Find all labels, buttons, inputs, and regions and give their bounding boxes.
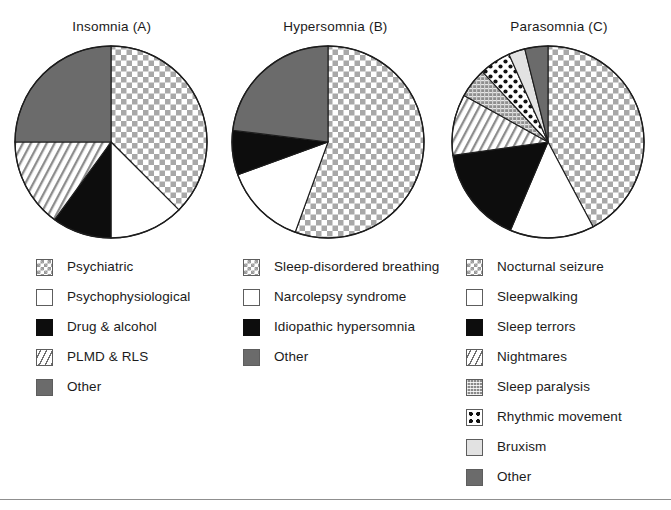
legend-item-label: PLMD & RLS bbox=[67, 349, 148, 365]
legend-item[interactable]: Other bbox=[466, 462, 671, 492]
legend-item-label: Nightmares bbox=[497, 349, 567, 365]
legend-swatch-gray-icon bbox=[243, 349, 260, 366]
legend-item[interactable]: Sleep paralysis bbox=[466, 372, 671, 402]
figure-panel: Insomnia (A) Hypersomnia (B) Parasomnia … bbox=[0, 0, 671, 510]
chart-title-parasomnia: Parasomnia (C) bbox=[447, 18, 671, 40]
legend-item[interactable]: Other bbox=[36, 372, 236, 402]
legend-swatch-white-icon bbox=[466, 289, 483, 306]
legend-item[interactable]: Sleep terrors bbox=[466, 312, 671, 342]
legend-item-label: Sleepwalking bbox=[497, 289, 578, 305]
pie-slice[interactable] bbox=[15, 46, 111, 142]
legend-item-label: Sleep paralysis bbox=[497, 379, 590, 395]
chart-title-hypersomnia: Hypersomnia (B) bbox=[224, 18, 448, 40]
legend-item-label: Other bbox=[67, 379, 101, 395]
legend-swatch-checker-icon bbox=[466, 259, 483, 276]
legend-item[interactable]: Nightmares bbox=[466, 342, 671, 372]
pie-slices-hypersomnia bbox=[232, 46, 424, 238]
legend-swatch-lightgray-icon bbox=[466, 439, 483, 456]
legend-item-label: Rhythmic movement bbox=[497, 409, 622, 425]
pie-slices-parasomnia bbox=[452, 46, 644, 238]
legend-hypersomnia: Sleep-disordered breathingNarcolepsy syn… bbox=[243, 252, 458, 372]
legend-item-label: Other bbox=[274, 349, 308, 365]
legend-item[interactable]: Nocturnal seizure bbox=[466, 252, 671, 282]
legend-item[interactable]: Psychiatric bbox=[36, 252, 236, 282]
legend-item-label: Sleep-disordered breathing bbox=[274, 259, 439, 275]
legend-swatch-diagonal-icon bbox=[466, 349, 483, 366]
legend-swatch-diagonal-icon bbox=[36, 349, 53, 366]
chart-title-insomnia: Insomnia (A) bbox=[0, 18, 224, 40]
legend-item-label: Idiopathic hypersomnia bbox=[274, 319, 415, 335]
legend-insomnia: PsychiatricPsychophysiologicalDrug & alc… bbox=[36, 252, 236, 402]
legend-swatch-white-icon bbox=[36, 289, 53, 306]
legend-item-label: Narcolepsy syndrome bbox=[274, 289, 406, 305]
legend-item[interactable]: Narcolepsy syndrome bbox=[243, 282, 458, 312]
legend-item[interactable]: Drug & alcohol bbox=[36, 312, 236, 342]
legend-parasomnia: Nocturnal seizureSleepwalkingSleep terro… bbox=[466, 252, 671, 492]
pie-svg-parasomnia bbox=[448, 44, 648, 244]
legend-swatch-black-icon bbox=[36, 319, 53, 336]
legend-swatch-checker-icon bbox=[243, 259, 260, 276]
legend-swatch-checker-icon bbox=[36, 259, 53, 276]
legend-item[interactable]: Rhythmic movement bbox=[466, 402, 671, 432]
legend-swatch-grayfine-icon bbox=[466, 379, 483, 396]
legend-swatch-gray-icon bbox=[36, 379, 53, 396]
legend-item[interactable]: Psychophysiological bbox=[36, 282, 236, 312]
legend-item[interactable]: Bruxism bbox=[466, 432, 671, 462]
legend-item[interactable]: Sleep-disordered breathing bbox=[243, 252, 458, 282]
legend-item[interactable]: Other bbox=[243, 342, 458, 372]
legend-swatch-white-icon bbox=[243, 289, 260, 306]
pie-slices-insomnia bbox=[15, 46, 207, 238]
legend-item-label: Psychiatric bbox=[67, 259, 133, 275]
pie-chart-parasomnia bbox=[448, 44, 648, 244]
legend-swatch-dots-icon bbox=[466, 409, 483, 426]
pie-chart-insomnia bbox=[11, 44, 211, 244]
legend-item[interactable]: PLMD & RLS bbox=[36, 342, 236, 372]
legend-swatch-gray-icon bbox=[466, 469, 483, 486]
legend-item-label: Sleep terrors bbox=[497, 319, 576, 335]
legend-item-label: Psychophysiological bbox=[67, 289, 190, 305]
pie-charts-row bbox=[0, 44, 671, 244]
legend-item[interactable]: Sleepwalking bbox=[466, 282, 671, 312]
legend-swatch-black-icon bbox=[243, 319, 260, 336]
legend-swatch-black-icon bbox=[466, 319, 483, 336]
pie-chart-hypersomnia bbox=[228, 44, 428, 244]
legend-item[interactable]: Idiopathic hypersomnia bbox=[243, 312, 458, 342]
chart-titles-row: Insomnia (A) Hypersomnia (B) Parasomnia … bbox=[0, 18, 671, 40]
pie-slice[interactable] bbox=[233, 46, 328, 142]
legend-item-label: Nocturnal seizure bbox=[497, 259, 604, 275]
legend-item-label: Other bbox=[497, 469, 531, 485]
bottom-divider bbox=[0, 499, 671, 500]
legends-row: PsychiatricPsychophysiologicalDrug & alc… bbox=[0, 252, 671, 482]
legend-item-label: Bruxism bbox=[497, 439, 546, 455]
pie-svg-hypersomnia bbox=[228, 44, 428, 244]
pie-svg-insomnia bbox=[11, 44, 211, 244]
legend-item-label: Drug & alcohol bbox=[67, 319, 157, 335]
